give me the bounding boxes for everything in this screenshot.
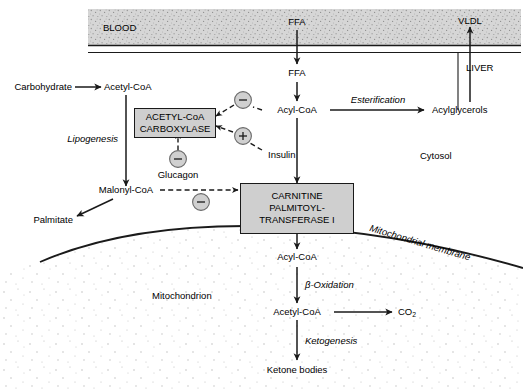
compartment-label-mitochondrion: Mitochondrion bbox=[152, 290, 212, 301]
enzyme-box-acetyl-coa-carboxylase bbox=[134, 108, 216, 138]
metabolite-ffa-blood: FFA bbox=[288, 16, 305, 27]
hormone-insulin: Insulin bbox=[268, 149, 295, 160]
metabolite-vldl: VLDL bbox=[458, 15, 482, 26]
arrow-malonylcoa-to-palmitate bbox=[77, 199, 113, 216]
metabolite-co2: CO2 bbox=[398, 306, 416, 317]
compartment-label-blood: BLOOD bbox=[103, 22, 136, 33]
metabolite-acyl-coa-cytosol: Acyl-CoA bbox=[277, 104, 317, 115]
sign-circle-insulin-plus bbox=[235, 128, 252, 145]
metabolite-carbohydrate: Carbohydrate bbox=[14, 81, 72, 92]
compartment-label-mitochondrial-membrane: Mitochondrial membrane bbox=[368, 222, 471, 262]
metabolite-acyl-coa-mitochondrion: Acyl-CoA bbox=[277, 251, 317, 262]
enzyme-box-carnitine-palmitoyltransferase-1 bbox=[240, 183, 354, 234]
co2-subscript: 2 bbox=[412, 311, 416, 318]
process-lipogenesis: Lipogenesis bbox=[67, 133, 118, 144]
metabolite-acetyl-coa-mitochondrion: Acetyl-CoA bbox=[273, 306, 321, 317]
metabolite-acetyl-coa-cytosol: Acetyl-CoA bbox=[104, 81, 152, 92]
sign-circle-glucagon-minus bbox=[170, 151, 187, 168]
process-ketogenesis: Ketogenesis bbox=[305, 335, 357, 346]
dashed-plus-to-acc bbox=[216, 126, 233, 132]
process-beta-oxidation: β-Oxidation bbox=[305, 279, 354, 290]
hormone-glucagon: Glucagon bbox=[158, 169, 199, 180]
metabolite-malonyl-coa: Malonyl-CoA bbox=[99, 184, 153, 195]
metabolite-ffa-liver: FFA bbox=[288, 67, 305, 78]
dashed-insulin-inhibit-acc bbox=[216, 105, 234, 116]
metabolite-acylglycerols: Acylglycerols bbox=[432, 104, 487, 115]
metabolite-palmitate: Palmitate bbox=[33, 214, 73, 225]
fatty-acid-metabolism-diagram: ACETYL-CoA CARBOXYLASE CARNITINE PALMITO… bbox=[0, 0, 523, 390]
dashed-acylcoa-to-minus bbox=[253, 107, 262, 110]
dashed-insulin-activate-acc bbox=[248, 142, 262, 150]
process-esterification: Esterification bbox=[351, 94, 405, 105]
sign-circle-malonylcoa-minus bbox=[193, 194, 210, 211]
compartment-label-liver: LIVER bbox=[466, 62, 493, 73]
sign-circle-insulin-minus bbox=[235, 92, 252, 109]
metabolite-ketone-bodies: Ketone bodies bbox=[267, 364, 328, 375]
compartment-label-cytosol: Cytosol bbox=[420, 150, 452, 161]
co2-text: CO bbox=[398, 306, 412, 317]
